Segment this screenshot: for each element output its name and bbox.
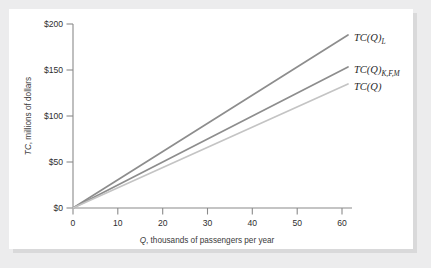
y-axis-title-rest: , millions of dollars bbox=[24, 77, 33, 144]
y-tick-label-100: $100 bbox=[44, 111, 63, 121]
x-axis-title-rest: , thousands of passengers per year bbox=[146, 236, 275, 245]
series-line-tc-q bbox=[73, 84, 348, 208]
series-label-tc-q-kfm: TC(Q)K,F,M bbox=[354, 64, 401, 78]
y-axis-title-symbol: TC bbox=[24, 144, 33, 155]
y-axis-title: TC, millions of dollars bbox=[24, 77, 33, 155]
y-tick-label-0: $0 bbox=[53, 203, 63, 213]
y-tick-marks bbox=[67, 24, 74, 208]
x-tick-label-30: 30 bbox=[203, 218, 213, 228]
y-tick-label-50: $50 bbox=[49, 157, 64, 167]
chart-svg: $200 $150 $100 $50 $0 0 10 20 30 40 50 6… bbox=[0, 0, 431, 268]
series-label-tc-q-l-sub: L bbox=[380, 37, 385, 46]
x-axis-title: Q, thousands of passengers per year bbox=[140, 236, 275, 245]
x-tick-label-60: 60 bbox=[337, 218, 347, 228]
series-line-tc-q-l bbox=[73, 35, 348, 208]
y-tick-label-200: $200 bbox=[44, 19, 63, 29]
figure-container: $200 $150 $100 $50 $0 0 10 20 30 40 50 6… bbox=[0, 0, 431, 268]
y-tick-label-150: $150 bbox=[44, 65, 63, 75]
series-label-tc-q-l-main: TC(Q) bbox=[354, 32, 382, 44]
x-tick-label-10: 10 bbox=[113, 218, 123, 228]
series-label-tc-q-l: TC(Q)L bbox=[354, 32, 386, 46]
x-tick-label-0: 0 bbox=[71, 218, 76, 228]
series-line-tc-q-kfm bbox=[73, 67, 348, 208]
series-label-tc-q-main: TC(Q) bbox=[354, 81, 382, 93]
series-label-tc-q: TC(Q) bbox=[354, 81, 382, 93]
x-tick-marks bbox=[73, 208, 342, 215]
x-tick-label-50: 50 bbox=[292, 218, 302, 228]
series-label-tc-q-kfm-sub: K,F,M bbox=[380, 69, 400, 78]
series-label-tc-q-kfm-main: TC(Q) bbox=[354, 64, 382, 76]
x-tick-label-20: 20 bbox=[158, 218, 168, 228]
x-tick-label-40: 40 bbox=[248, 218, 258, 228]
